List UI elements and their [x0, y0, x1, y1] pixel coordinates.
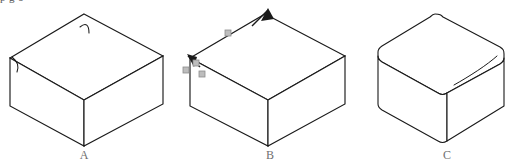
- shape-c-label: C: [443, 148, 451, 162]
- selection-marker[interactable]: [193, 60, 199, 66]
- selection-marker[interactable]: [199, 71, 205, 77]
- shape-a-group[interactable]: A: [10, 14, 163, 162]
- selection-marker[interactable]: [225, 30, 231, 36]
- shape-b-group[interactable]: B: [183, 8, 345, 162]
- isometric-boxes-figure: A B: [0, 0, 527, 164]
- shape-b-label: B: [266, 148, 274, 162]
- shape-c-group[interactable]: C: [378, 14, 504, 162]
- selection-marker[interactable]: [183, 67, 189, 73]
- shape-a-label: A: [80, 148, 89, 162]
- figure-container: p g o A: [0, 0, 527, 164]
